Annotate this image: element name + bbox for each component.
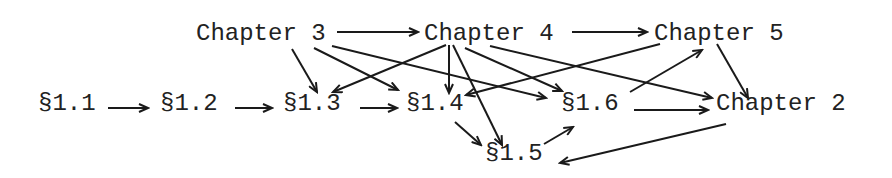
node-chapter-4: Chapter 4 (424, 20, 554, 47)
dependency-diagram: Chapter 3 Chapter 4 Chapter 5 §1.1 §1.2 … (0, 0, 892, 178)
arrow-ch4-to-s16 (465, 48, 562, 91)
arrow-s14-to-s15 (455, 122, 481, 145)
node-section-1-3: §1.3 (283, 90, 341, 117)
node-section-1-1: §1.1 (38, 90, 96, 117)
node-section-1-5: §1.5 (485, 140, 543, 167)
node-chapter-3: Chapter 3 (196, 20, 326, 47)
arrow-s16-to-ch5 (630, 50, 702, 92)
arrow-ch3-to-s13 (292, 49, 317, 92)
arrow-ch2-to-s15 (560, 124, 726, 163)
arrow-ch3-to-s14 (314, 48, 398, 90)
node-section-1-6: §1.6 (561, 90, 619, 117)
node-chapter-2: Chapter 2 (716, 90, 846, 117)
arrow-ch5-to-s14 (466, 44, 660, 95)
arrow-s15-to-s16 (544, 127, 573, 144)
node-section-1-4: §1.4 (406, 90, 464, 117)
nodes-layer: Chapter 3 Chapter 4 Chapter 5 §1.1 §1.2 … (38, 20, 846, 167)
node-section-1-2: §1.2 (160, 90, 218, 117)
node-chapter-5: Chapter 5 (654, 20, 784, 47)
